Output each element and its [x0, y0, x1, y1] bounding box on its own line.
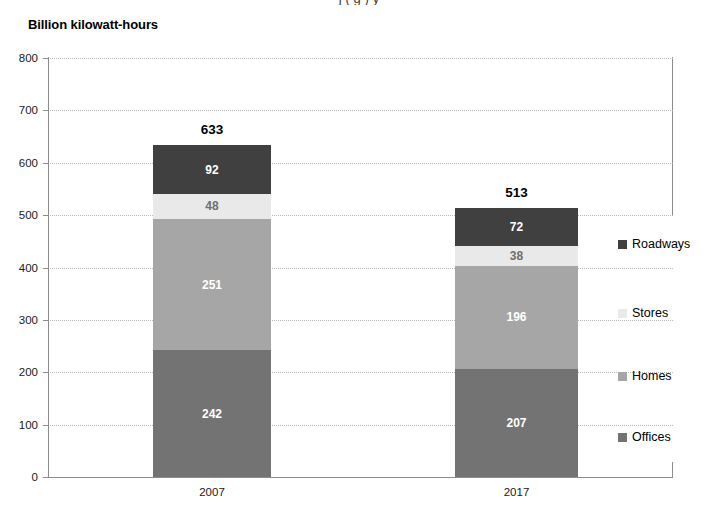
- y-axis-tick: [43, 110, 49, 111]
- y-axis-tick: [43, 215, 49, 216]
- bar-segment-stores[interactable]: 38: [455, 246, 578, 266]
- legend-item-homes[interactable]: Homes: [618, 370, 672, 383]
- y-axis-tick-label: 600: [0, 158, 38, 170]
- y-axis-tick: [43, 58, 49, 59]
- x-axis-category-label: 2017: [455, 486, 578, 498]
- gridline: [48, 268, 673, 270]
- y-axis-tick: [43, 320, 49, 321]
- y-axis-tick-label: 100: [0, 420, 38, 432]
- bar-segment-homes[interactable]: 251: [153, 219, 271, 350]
- y-axis-tick-label: 200: [0, 367, 38, 379]
- y-axis-tick-label: 300: [0, 315, 38, 327]
- y-axis-tick-label: 700: [0, 105, 38, 117]
- legend-label: Roadways: [632, 238, 690, 251]
- legend-swatch-icon: [618, 372, 627, 381]
- x-axis-line: [48, 477, 673, 478]
- bar-segment-offices[interactable]: 242: [153, 350, 271, 477]
- bar-segment-stores[interactable]: 48: [153, 194, 271, 219]
- y-axis-tick: [43, 477, 49, 478]
- y-axis-tick: [43, 268, 49, 269]
- y-axis-unit-title: Billion kilowatt-hours: [28, 17, 158, 32]
- legend-swatch-icon: [618, 309, 627, 318]
- legend-item-stores[interactable]: Stores: [618, 307, 668, 320]
- cut-off-title-fragment: j ( g ) y: [0, 0, 718, 5]
- y-axis-tick-label: 400: [0, 263, 38, 275]
- bar-group-2017: 51372381962072017: [455, 0, 578, 524]
- legend-swatch-icon: [618, 240, 627, 249]
- legend-label: Homes: [632, 370, 672, 383]
- y-axis-tick-label: 800: [0, 53, 38, 65]
- bar-segment-roadways[interactable]: 72: [455, 208, 578, 246]
- plot-border-right-lower: [672, 462, 673, 478]
- y-axis-tick: [43, 372, 49, 373]
- bar-segment-offices[interactable]: 207: [455, 369, 578, 477]
- gridline: [48, 58, 673, 60]
- y-axis-tick: [43, 425, 49, 426]
- legend-label: Stores: [632, 307, 668, 320]
- bar-total-label: 513: [455, 185, 578, 200]
- bar-segment-roadways[interactable]: 92: [153, 145, 271, 193]
- legend-item-roadways[interactable]: Roadways: [618, 238, 690, 251]
- y-axis-tick-label: 500: [0, 210, 38, 222]
- legend-swatch-icon: [618, 433, 627, 442]
- gridline: [48, 110, 673, 112]
- gridline: [48, 320, 673, 322]
- chart-container: j ( g ) y Billion kilowatt-hours 8007006…: [0, 0, 718, 524]
- legend-item-offices[interactable]: Offices: [618, 431, 671, 444]
- bar-total-label: 633: [153, 122, 271, 137]
- gridline: [48, 372, 673, 374]
- x-axis-category-label: 2007: [153, 486, 271, 498]
- y-axis-tick: [43, 163, 49, 164]
- gridline: [48, 163, 673, 165]
- plot-border-right-upper: [672, 57, 673, 215]
- legend-label: Offices: [632, 431, 671, 444]
- gridline: [48, 425, 673, 427]
- y-axis-tick-label: 0: [0, 472, 38, 484]
- bar-group-2007: 63392482512422007: [153, 0, 271, 524]
- gridline: [48, 215, 673, 217]
- bar-segment-homes[interactable]: 196: [455, 266, 578, 369]
